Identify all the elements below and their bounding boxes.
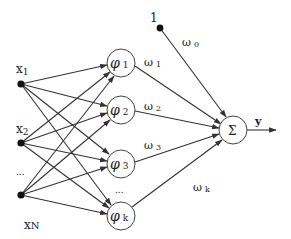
input-ellipsis: ... [16, 167, 25, 177]
hidden-sum-edges [132, 28, 226, 207]
hidden-nodes [107, 49, 135, 230]
hidden-ellipsis: ... [115, 185, 124, 195]
weight-label-w0: ω0 [182, 36, 199, 49]
weight-label-w1: ω1 [144, 56, 161, 69]
weight-label-wk: ωk [193, 181, 210, 194]
diagram-svg: x1 x2 ... xN φ1 φ2 φ3 ... φk 1 ω0 ω1 ω2 … [0, 0, 291, 239]
input-hidden-edges [21, 65, 114, 214]
weight-label-w3: ω3 [144, 139, 161, 152]
input-label-x1: x1 [16, 62, 29, 77]
input-node-x1 [17, 80, 24, 87]
input-label-xN: xN [24, 218, 40, 232]
bias-label: 1 [150, 11, 158, 25]
input-nodes [17, 80, 24, 198]
input-node-xN [17, 191, 24, 198]
input-node-x2 [17, 139, 24, 146]
bias-node [157, 25, 164, 32]
sum-label: Σ [228, 124, 236, 138]
output-label: y [254, 115, 262, 128]
input-label-x2: x2 [16, 122, 29, 137]
rbf-network-diagram: x1 x2 ... xN φ1 φ2 φ3 ... φk 1 ω0 ω1 ω2 … [0, 0, 291, 239]
weight-label-w2: ω2 [144, 100, 161, 113]
